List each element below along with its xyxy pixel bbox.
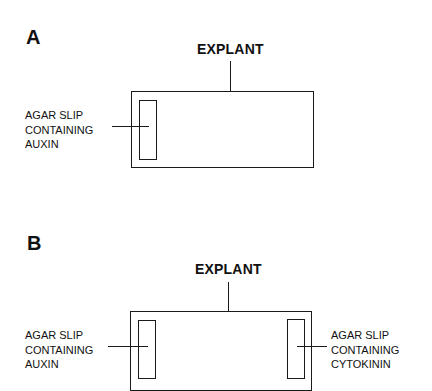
label-line: AUXIN (25, 137, 93, 152)
label-line: AGAR SLIP (25, 108, 93, 123)
label-line: CONTAINING (25, 343, 93, 358)
cytokinin-pointer-line-b (297, 346, 327, 347)
agar-slip-auxin-b (138, 320, 156, 379)
label-line: AGAR SLIP (25, 328, 93, 343)
label-line: CYTOKININ (331, 357, 399, 372)
auxin-pointer-line-a (112, 126, 149, 127)
label-line: AUXIN (25, 357, 93, 372)
explant-pointer-line-b (228, 282, 229, 312)
label-line: CONTAINING (331, 343, 399, 358)
auxin-slip-label-a: AGAR SLIP CONTAINING AUXIN (25, 108, 93, 152)
explant-label-a: EXPLANT (197, 42, 264, 56)
explant-pointer-line-a (230, 61, 231, 92)
agar-slip-auxin-a (139, 100, 157, 160)
auxin-slip-label-b: AGAR SLIP CONTAINING AUXIN (25, 328, 93, 372)
explant-box-b (130, 311, 312, 391)
explant-label-b: EXPLANT (195, 262, 262, 276)
panel-letter-b: B (27, 233, 41, 253)
explant-box-a (131, 91, 314, 168)
panel-letter-a: A (26, 27, 40, 47)
label-line: CONTAINING (25, 123, 93, 138)
label-line: AGAR SLIP (331, 328, 399, 343)
cytokinin-slip-label-b: AGAR SLIP CONTAINING CYTOKININ (331, 328, 399, 372)
auxin-pointer-line-b (108, 346, 148, 347)
agar-slip-cytokinin-b (287, 319, 305, 379)
